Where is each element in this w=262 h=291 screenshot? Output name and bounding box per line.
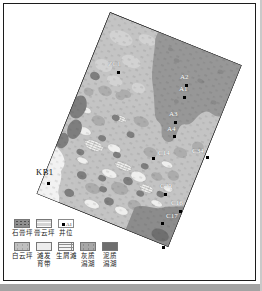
legend-item-shoal-belt: 滩发 育带	[33, 242, 55, 268]
gypsum-flat-swatch	[14, 219, 30, 228]
well-location-swatch: A1	[58, 219, 74, 228]
scan-edge-strip	[0, 284, 262, 291]
legend-row-1: 石膏坪 膏云坪 A1 井位	[11, 219, 77, 238]
scan-edge-strip-right	[260, 0, 262, 291]
legend-row-2: 白云坪 滩发 育带 生屑滩 灰质 潟湖	[11, 242, 121, 268]
legend-label: 白云坪	[12, 252, 33, 260]
shoal-belt-swatch	[36, 242, 52, 251]
legend-item-mud-lagoon: 泥质 潟湖	[99, 242, 121, 268]
legend-item-bioclastic-shoal: 生屑滩	[55, 242, 77, 268]
figure-page: 石膏坪 膏云坪 A1 井位 白云坪 滩发	[0, 0, 262, 291]
well-sample-id: A1	[66, 222, 72, 228]
bioclastic-shoal-swatch	[58, 242, 74, 251]
limy-lagoon-swatch	[80, 242, 96, 251]
legend-label-line2: 潟湖	[99, 261, 121, 269]
gypsum-dolomite-flat-swatch	[36, 219, 52, 228]
dolomite-flat-swatch	[14, 242, 30, 251]
legend-item-gypsum-dolomite-flat: 膏云坪	[33, 219, 55, 238]
legend-item-limy-lagoon: 灰质 潟湖	[77, 242, 99, 268]
mud-lagoon-swatch	[102, 242, 118, 251]
legend-label: 石膏坪	[11, 230, 33, 238]
well-marker-icon	[62, 223, 65, 226]
legend-label: 膏云坪	[33, 230, 55, 238]
legend-label-line2: 育带	[33, 261, 55, 269]
legend-label: 生屑滩	[56, 252, 77, 260]
legend-item-gypsum-flat: 石膏坪	[11, 219, 33, 238]
legend-item-well-location: A1 井位	[55, 219, 77, 238]
legend-label-line2: 潟湖	[77, 261, 99, 269]
legend-item-dolomite-flat: 白云坪	[11, 242, 33, 268]
legend-label: 井位	[55, 230, 77, 238]
